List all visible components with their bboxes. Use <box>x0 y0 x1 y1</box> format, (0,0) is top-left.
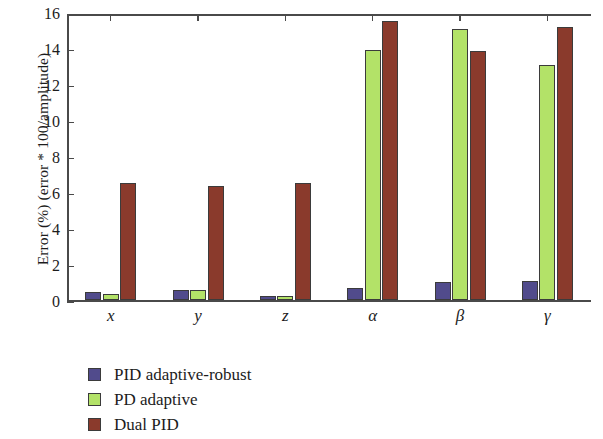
y-tick-label: 2 <box>52 255 60 277</box>
x-tick-label: α <box>343 306 403 326</box>
plot-top-border <box>67 14 591 16</box>
bar <box>120 183 136 300</box>
bar <box>470 51 486 300</box>
legend-swatch <box>88 368 101 381</box>
bar <box>365 50 381 300</box>
bar-chart-figure: Error (%) (error * 100/amplitude) 024681… <box>0 0 603 439</box>
y-tick-mark <box>67 50 74 51</box>
x-tick-label: y <box>168 306 228 326</box>
y-tick-label: 16 <box>44 3 60 25</box>
y-tick-label: 8 <box>52 147 60 169</box>
y-tick-mark <box>67 122 74 123</box>
y-tick-mark <box>67 158 74 159</box>
bar <box>190 290 206 301</box>
bar <box>208 186 224 300</box>
legend-label: PD adaptive <box>114 390 198 410</box>
bar <box>435 282 451 300</box>
y-tick-label: 12 <box>44 75 60 97</box>
x-axis-line <box>67 300 591 302</box>
legend-swatch <box>88 418 101 431</box>
y-tick-mark <box>67 266 74 267</box>
y-tick-label: 4 <box>52 219 60 241</box>
bar <box>173 290 189 301</box>
legend-item: PD adaptive <box>88 387 418 412</box>
bar <box>522 281 538 301</box>
y-tick-mark <box>67 302 74 303</box>
bar <box>103 294 119 301</box>
bar <box>382 21 398 300</box>
x-tick-mark <box>110 14 111 21</box>
y-tick-label: 10 <box>44 111 60 133</box>
x-tick-label: z <box>255 306 315 326</box>
plot-area: 0246810121416 xyzαβγ <box>67 14 591 302</box>
legend-label: PID adaptive-robust <box>114 365 251 385</box>
bar <box>347 288 363 301</box>
legend-swatch <box>88 393 101 406</box>
x-tick-label: β <box>430 306 490 326</box>
legend-item: PID adaptive-robust <box>88 362 418 387</box>
x-tick-label: x <box>81 306 141 326</box>
x-tick-mark <box>197 14 198 21</box>
y-tick-mark <box>67 230 74 231</box>
y-tick-label: 6 <box>52 183 60 205</box>
bar <box>452 29 468 301</box>
bar <box>277 296 293 300</box>
y-tick-mark <box>67 86 74 87</box>
legend: PID adaptive-robustPD adaptiveDual PID <box>88 362 418 437</box>
y-tick-mark <box>67 194 74 195</box>
x-tick-mark <box>372 14 373 21</box>
x-tick-mark <box>459 14 460 21</box>
y-tick-label: 0 <box>52 291 60 313</box>
x-tick-mark <box>285 14 286 21</box>
bar <box>85 292 101 300</box>
bar <box>260 296 276 300</box>
y-tick-label: 14 <box>44 39 60 61</box>
bar <box>557 27 573 301</box>
bar <box>539 65 555 301</box>
x-tick-label: γ <box>517 306 577 326</box>
legend-label: Dual PID <box>114 415 179 435</box>
x-tick-mark <box>547 14 548 21</box>
y-tick-mark <box>67 14 74 15</box>
bar <box>295 183 311 301</box>
legend-item: Dual PID <box>88 412 418 437</box>
